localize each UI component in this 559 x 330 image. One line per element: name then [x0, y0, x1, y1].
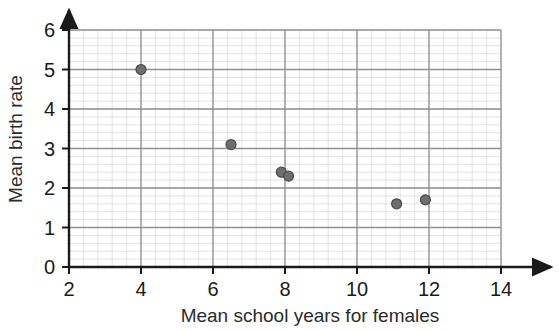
y-tick-label: 5	[44, 59, 55, 81]
x-axis-tick-labels: 2468101214	[63, 278, 512, 300]
x-tick-label: 10	[346, 278, 368, 300]
data-point	[392, 199, 402, 209]
data-point-series	[136, 65, 430, 209]
x-tick-label: 4	[135, 278, 146, 300]
data-point	[284, 171, 294, 181]
chart-canvas: 2468101214 0123456 Mean school years for…	[0, 0, 559, 330]
major-gridlines	[69, 30, 501, 267]
y-tick-label: 0	[44, 256, 55, 278]
x-tick-label: 2	[63, 278, 74, 300]
x-axis-title: Mean school years for females	[181, 305, 440, 326]
scatter-chart-figure: 2468101214 0123456 Mean school years for…	[0, 0, 559, 330]
y-axis-tick-labels: 0123456	[44, 19, 55, 278]
x-tick-label: 6	[207, 278, 218, 300]
data-point	[136, 65, 146, 75]
x-tick-label: 12	[418, 278, 440, 300]
x-tick-label: 14	[490, 278, 512, 300]
y-tick-label: 6	[44, 19, 55, 41]
data-point	[420, 195, 430, 205]
y-axis-title: Mean birth rate	[5, 75, 26, 203]
y-tick-label: 2	[44, 177, 55, 199]
y-tick-label: 4	[44, 98, 55, 120]
x-tick-label: 8	[279, 278, 290, 300]
y-tick-label: 3	[44, 138, 55, 160]
data-point	[226, 140, 236, 150]
y-tick-label: 1	[44, 217, 55, 239]
